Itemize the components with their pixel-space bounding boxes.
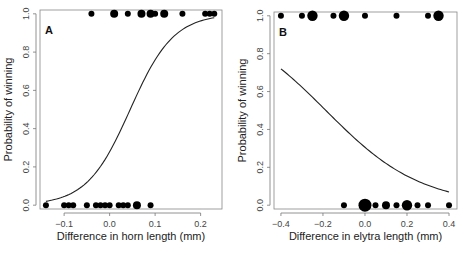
data-point — [107, 202, 113, 208]
data-point — [425, 13, 431, 19]
y-tick-label: 0.2 — [255, 161, 265, 174]
data-point — [110, 10, 118, 18]
data-point — [372, 202, 378, 208]
panel-label: A — [45, 24, 53, 36]
panel-b: 0.00.20.40.60.81.0−0.4−0.20.00.20.4Diffe… — [236, 10, 457, 242]
data-point — [148, 202, 154, 208]
y-tick-label: 0.6 — [21, 84, 31, 97]
data-point — [393, 202, 399, 208]
panel-label: B — [279, 26, 287, 38]
data-point — [307, 11, 317, 21]
y-axis-label: Probability of winning — [2, 58, 14, 162]
x-tick-label: 0.2 — [194, 219, 207, 229]
data-point — [88, 11, 94, 17]
data-point — [179, 11, 185, 17]
data-point — [299, 13, 305, 19]
data-point — [152, 11, 158, 17]
x-tick-label: 0.2 — [401, 219, 414, 229]
y-axis-label: Probability of winning — [236, 59, 248, 163]
plot-frame — [274, 12, 457, 209]
data-point — [133, 201, 141, 209]
y-tick-label: 0.8 — [21, 46, 31, 59]
data-point — [84, 202, 90, 208]
data-point — [415, 202, 421, 208]
data-point — [137, 10, 145, 18]
y-tick-label: 0.8 — [255, 47, 265, 60]
data-point — [393, 13, 399, 19]
data-point — [382, 201, 390, 209]
x-tick-label: −0.4 — [272, 219, 290, 229]
data-point — [160, 10, 168, 18]
y-tick-label: 0.0 — [255, 199, 265, 212]
y-tick-label: 0.0 — [21, 199, 31, 212]
y-tick-label: 1.0 — [21, 8, 31, 21]
data-point — [43, 202, 49, 208]
data-point — [278, 13, 284, 19]
y-tick-label: 0.2 — [21, 161, 31, 174]
data-point — [402, 200, 412, 210]
x-axis-label: Difference in horn length (mm) — [57, 230, 205, 242]
x-tick-label: 0.4 — [443, 219, 456, 229]
x-tick-label: 0.1 — [149, 219, 162, 229]
x-tick-label: −0.2 — [314, 219, 332, 229]
data-point — [362, 13, 368, 19]
panel-a: 0.00.20.40.60.81.0−0.10.00.10.2Differenc… — [2, 8, 222, 242]
data-point — [125, 11, 131, 17]
data-point — [211, 11, 217, 17]
x-tick-label: 0.0 — [103, 219, 116, 229]
y-tick-label: 0.6 — [255, 85, 265, 98]
data-point — [446, 202, 452, 208]
figure: 0.00.20.40.60.81.0−0.10.00.10.2Differenc… — [0, 0, 465, 255]
data-point — [70, 202, 76, 208]
data-point — [425, 202, 431, 208]
x-axis-label: Difference in elytra length (mm) — [289, 230, 442, 242]
data-point — [433, 11, 443, 21]
x-tick-label: −0.1 — [55, 219, 73, 229]
logistic-fit-curve — [281, 69, 449, 192]
logistic-fit-curve — [46, 18, 214, 202]
y-tick-label: 0.4 — [21, 122, 31, 135]
data-point — [358, 199, 371, 212]
data-point — [125, 202, 131, 208]
y-tick-label: 0.4 — [255, 123, 265, 136]
data-point — [330, 13, 336, 19]
x-tick-label: 0.0 — [359, 219, 372, 229]
plot-frame — [40, 10, 222, 209]
data-point — [341, 202, 347, 208]
y-tick-label: 1.0 — [255, 10, 265, 23]
data-point — [339, 11, 349, 21]
